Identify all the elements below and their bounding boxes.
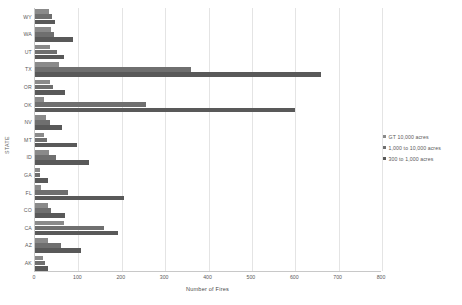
bar xyxy=(35,226,104,231)
legend-swatch xyxy=(383,157,386,160)
x-axis-tick-label: 200 xyxy=(116,274,125,280)
bar xyxy=(35,150,49,155)
bar xyxy=(35,231,118,236)
x-axis-tick-labels: 0100200300400500600700800 xyxy=(34,274,381,284)
bar-group xyxy=(35,45,381,60)
bar-group xyxy=(35,203,381,218)
x-axis-tick-label: 100 xyxy=(73,274,82,280)
bar xyxy=(35,97,44,102)
bar xyxy=(35,238,48,243)
bar xyxy=(35,243,61,248)
y-axis-tick-label: NV xyxy=(6,119,32,125)
bar xyxy=(35,120,50,125)
bar xyxy=(35,185,41,190)
bar xyxy=(35,62,59,67)
bar-group xyxy=(35,80,381,95)
bar xyxy=(35,27,51,32)
bar xyxy=(35,208,51,213)
legend-label: 300 to 1,000 acres xyxy=(389,156,434,162)
bar-chart: STATE WYWAUTTXOROKNVMTIDGAFLCOCAAZAK 010… xyxy=(0,0,462,305)
bar-group xyxy=(35,238,381,253)
bar xyxy=(35,90,65,95)
bar xyxy=(35,67,191,72)
legend-label: 1,000 to 10,000 acres xyxy=(389,145,441,151)
bar xyxy=(35,108,295,113)
bar xyxy=(35,266,48,271)
legend-item: GT 10,000 acres xyxy=(383,131,461,142)
bar xyxy=(35,133,44,138)
x-axis-tick-label: 800 xyxy=(377,274,386,280)
legend-item: 1,000 to 10,000 acres xyxy=(383,142,461,153)
bar-group xyxy=(35,256,381,271)
bar xyxy=(35,50,57,55)
bar xyxy=(35,168,40,173)
bar xyxy=(35,261,45,266)
bar xyxy=(35,221,64,226)
bar xyxy=(35,178,48,183)
bar-group xyxy=(35,27,381,42)
bar xyxy=(35,248,81,253)
bar xyxy=(35,125,62,130)
bar xyxy=(35,196,124,201)
bar-group xyxy=(35,62,381,77)
legend-label: GT 10,000 acres xyxy=(389,134,429,140)
x-axis-tick-label: 500 xyxy=(247,274,256,280)
bar-group xyxy=(35,133,381,148)
bar-group xyxy=(35,185,381,200)
bar xyxy=(35,80,50,85)
y-axis-tick-label: CA xyxy=(6,225,32,231)
x-axis-title: Number of Fires xyxy=(34,286,381,292)
bar xyxy=(35,9,49,14)
x-axis-tick-label: 700 xyxy=(333,274,342,280)
bar xyxy=(35,85,53,90)
bar xyxy=(35,143,77,148)
bar-group xyxy=(35,97,381,112)
y-axis-tick-label: OR xyxy=(6,84,32,90)
y-axis-tick-label: AK xyxy=(6,260,32,266)
y-axis-tick-label: GA xyxy=(6,172,32,178)
bar xyxy=(35,37,73,42)
y-axis-tick-label: ID xyxy=(6,154,32,160)
bar-group xyxy=(35,115,381,130)
bar xyxy=(35,20,55,25)
bar-group xyxy=(35,150,381,165)
y-axis-tick-label: WY xyxy=(6,14,32,20)
bar xyxy=(35,138,47,143)
x-axis-tick-label: 0 xyxy=(33,274,36,280)
y-axis-tick-label: CO xyxy=(6,207,32,213)
legend-swatch xyxy=(383,135,386,138)
x-axis-tick-label: 400 xyxy=(203,274,212,280)
bar xyxy=(35,115,46,120)
bar xyxy=(35,256,43,261)
bar xyxy=(35,160,89,165)
y-axis-tick-label: OK xyxy=(6,102,32,108)
plot-area xyxy=(34,8,381,272)
y-axis-tick-label: UT xyxy=(6,49,32,55)
chart-legend: GT 10,000 acres1,000 to 10,000 acres300 … xyxy=(383,131,461,164)
legend-item: 300 to 1,000 acres xyxy=(383,153,461,164)
bar xyxy=(35,14,52,19)
bar xyxy=(35,55,64,60)
bar xyxy=(35,72,321,77)
bar xyxy=(35,102,146,107)
bar xyxy=(35,203,48,208)
y-axis-tick-labels: WYWAUTTXOROKNVMTIDGAFLCOCAAZAK xyxy=(2,8,32,272)
legend-swatch xyxy=(383,146,386,149)
bar-group xyxy=(35,9,381,24)
bar xyxy=(35,173,40,178)
bar-group xyxy=(35,221,381,236)
y-axis-tick-label: WA xyxy=(6,31,32,37)
x-axis-tick-label: 600 xyxy=(290,274,299,280)
bar xyxy=(35,45,50,50)
bar xyxy=(35,155,56,160)
bar xyxy=(35,190,68,195)
x-axis-tick-label: 300 xyxy=(160,274,169,280)
bar xyxy=(35,213,65,218)
y-axis-tick-label: FL xyxy=(6,190,32,196)
y-axis-tick-label: AZ xyxy=(6,242,32,248)
y-axis-tick-label: MT xyxy=(6,137,32,143)
bar xyxy=(35,32,54,37)
y-axis-tick-label: TX xyxy=(6,66,32,72)
bar-group xyxy=(35,168,381,183)
